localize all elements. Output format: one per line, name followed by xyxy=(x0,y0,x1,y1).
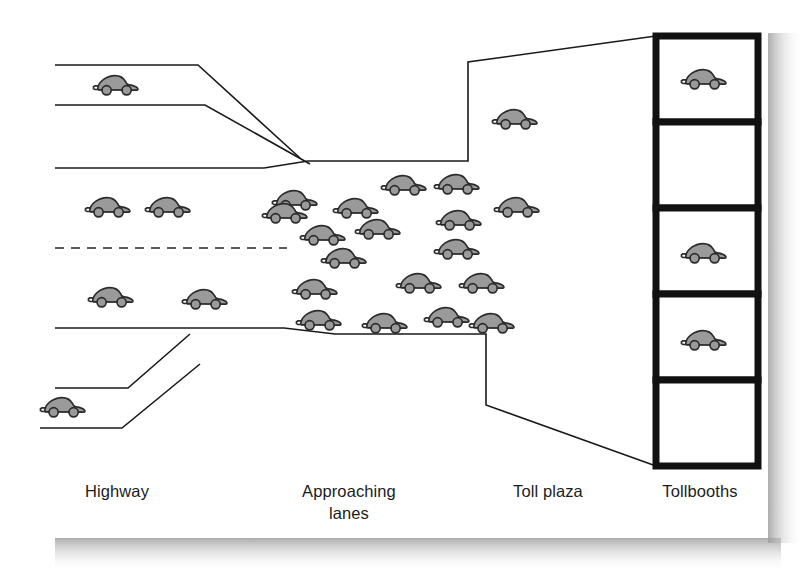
label-approaching-lanes-line1: Approaching xyxy=(302,482,396,500)
label-tollbooths: Tollbooths xyxy=(662,482,737,500)
figure-root: Highway Approaching lanes Toll plaza Tol… xyxy=(0,0,804,582)
label-approaching-lanes-line2: lanes xyxy=(329,504,369,522)
label-highway: Highway xyxy=(85,482,150,500)
tollbooth-cell-2[interactable] xyxy=(656,122,758,208)
tollbooth-cell-5[interactable] xyxy=(656,380,758,466)
toll-plaza-diagram: Highway Approaching lanes Toll plaza Tol… xyxy=(0,0,804,582)
label-toll-plaza: Toll plaza xyxy=(513,482,584,500)
